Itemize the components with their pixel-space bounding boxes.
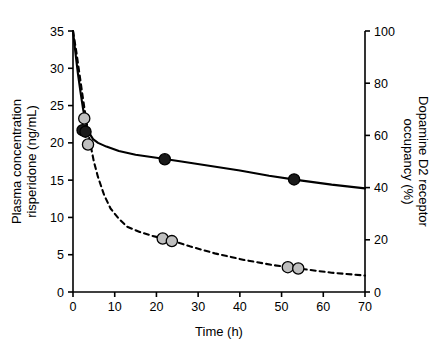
x-tick-label: 60 [316, 300, 330, 314]
y-tick-label-left: 25 [50, 99, 64, 113]
y-tick-label-right: 80 [374, 77, 388, 91]
data-point-plasma [159, 154, 170, 165]
y-tick-label-right: 20 [374, 233, 388, 247]
data-point-plasma [80, 126, 91, 137]
x-axis-title: Time (h) [195, 324, 243, 339]
y-tick-label-left: 20 [50, 136, 64, 150]
x-tick-label: 0 [70, 300, 77, 314]
y-tick-label-left: 35 [50, 25, 64, 39]
x-tick-label: 50 [275, 300, 289, 314]
data-point-plasma [288, 174, 299, 185]
data-point-occupancy [166, 236, 177, 247]
x-tick-label: 10 [108, 300, 122, 314]
x-tick-label: 70 [358, 300, 372, 314]
y-tick-label-right: 0 [374, 286, 381, 300]
pharmacokinetic-line-chart: 0510152025303502040608010001020304050607… [0, 0, 435, 351]
y-axis-left-title: Plasma concentrationrisperidone (ng/mL) [9, 99, 39, 224]
y-tick-label-right: 100 [374, 25, 395, 39]
y-tick-label-left: 0 [57, 286, 64, 300]
y-tick-label-left: 15 [50, 174, 64, 188]
data-point-occupancy [293, 263, 304, 274]
y-tick-label-left: 5 [57, 248, 64, 262]
chart-background [0, 0, 435, 351]
x-tick-label: 20 [149, 300, 163, 314]
y-tick-label-left: 10 [50, 211, 64, 225]
y-tick-label-right: 40 [374, 181, 388, 195]
data-point-occupancy [79, 113, 90, 124]
data-point-occupancy [82, 139, 93, 150]
chart-figure: 0510152025303502040608010001020304050607… [0, 0, 435, 351]
data-point-occupancy [282, 262, 293, 273]
x-tick-label: 30 [191, 300, 205, 314]
y-tick-label-left: 30 [50, 62, 64, 76]
y-tick-label-right: 60 [374, 129, 388, 143]
x-tick-label: 40 [233, 300, 247, 314]
